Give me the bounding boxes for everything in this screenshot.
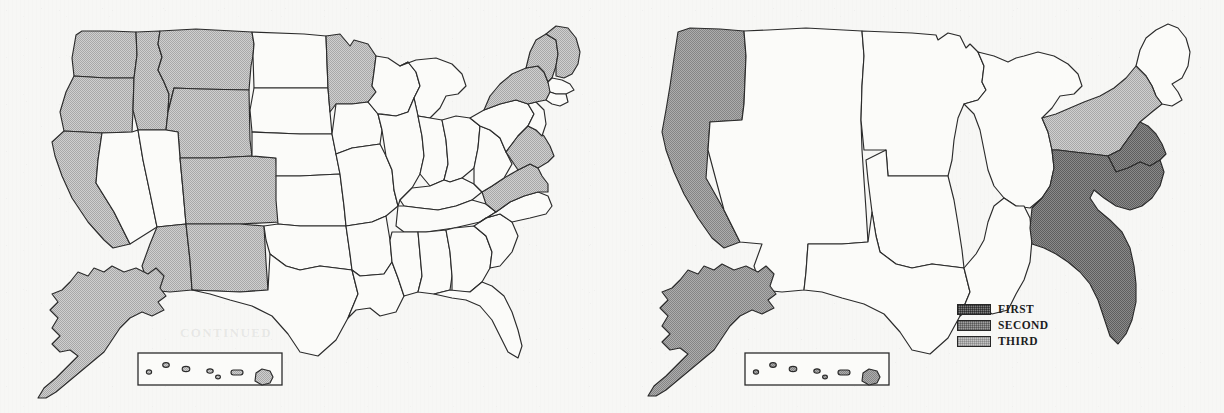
state-kansas <box>276 174 346 226</box>
left-map-svg <box>0 0 612 413</box>
legend-row-third: THIRD <box>957 335 1049 348</box>
state-south-dakota <box>250 88 332 134</box>
map-legend: FIRST SECOND THIRD <box>957 303 1049 348</box>
state-minnesota <box>326 34 376 112</box>
legend-row-second: SECOND <box>957 319 1049 332</box>
state-washington <box>72 31 137 78</box>
legend-label-third: THIRD <box>998 336 1038 348</box>
right-map-svg <box>612 0 1224 413</box>
region-lower-mississippi <box>960 198 1032 316</box>
left-map-panel <box>0 0 612 413</box>
legend-swatch-first-icon <box>957 304 991 315</box>
state-north-dakota <box>252 32 328 88</box>
state-alabama <box>418 230 452 294</box>
legend-swatch-third-icon <box>957 336 991 347</box>
legend-label-second: SECOND <box>998 320 1049 332</box>
right-map-panel <box>612 0 1224 413</box>
legend-swatch-second-icon <box>957 320 991 331</box>
figure-container: FIGURE 3 STATE RANKINGS REGIONAL SUMMARY… <box>0 0 1224 413</box>
legend-row-first: FIRST <box>957 303 1049 316</box>
state-colorado <box>180 156 280 224</box>
state-oregon <box>60 76 134 133</box>
legend-label-first: FIRST <box>998 304 1034 316</box>
state-florida <box>434 282 522 358</box>
state-massachusetts <box>548 78 574 94</box>
state-new-mexico <box>186 224 268 292</box>
state-connecticut-rhode-island <box>546 92 568 106</box>
state-arkansas <box>346 216 392 276</box>
